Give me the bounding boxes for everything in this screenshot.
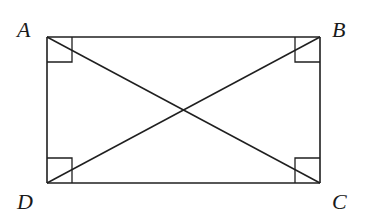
right-angle-marker-a <box>47 37 72 62</box>
vertex-label-c: C <box>332 189 347 214</box>
vertex-label-d: D <box>16 189 33 214</box>
diagonals <box>47 37 320 183</box>
vertex-label-a: A <box>15 17 31 42</box>
right-angle-marker-c <box>295 158 320 183</box>
right-angle-marker-b <box>295 37 320 62</box>
right-angle-marker-d <box>47 158 72 183</box>
rectangle-diagram: A B C D <box>0 0 365 224</box>
vertex-label-b: B <box>332 17 345 42</box>
